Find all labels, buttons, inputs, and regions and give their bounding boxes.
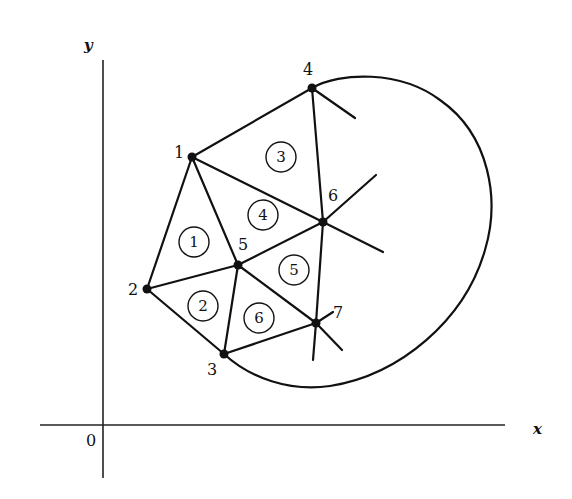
node-label-1: 1	[174, 143, 184, 162]
node-label-7: 7	[333, 303, 343, 322]
node-4	[308, 84, 317, 93]
node-6	[319, 218, 328, 227]
element-label-3: 3	[266, 142, 296, 172]
element-label-4: 4	[248, 200, 278, 230]
node-label-3: 3	[207, 360, 217, 379]
x-axis-label: x	[532, 420, 543, 438]
mesh-edges	[147, 88, 383, 360]
node-label-2: 2	[128, 280, 138, 299]
svg-text:4: 4	[258, 206, 268, 224]
node-5	[234, 261, 243, 270]
svg-text:1: 1	[189, 233, 199, 251]
element-label-1: 1	[179, 227, 209, 257]
svg-text:3: 3	[276, 148, 286, 166]
origin-label: 0	[86, 431, 96, 450]
svg-text:5: 5	[289, 261, 299, 279]
element-label-6: 6	[244, 303, 274, 333]
mesh-diagram: y x 0 1 2 3 4 5 6 7 1	[0, 0, 572, 499]
node-label-6: 6	[328, 186, 338, 205]
svg-text:6: 6	[254, 309, 264, 327]
node-3	[220, 350, 229, 359]
node-1	[188, 153, 197, 162]
element-label-2: 2	[188, 291, 218, 321]
node-7	[312, 319, 321, 328]
element-label-5: 5	[279, 255, 309, 285]
node-label-5: 5	[238, 235, 248, 254]
node-2	[143, 285, 152, 294]
node-label-4: 4	[303, 60, 313, 79]
y-axis-label: y	[83, 36, 94, 54]
svg-text:2: 2	[198, 297, 208, 315]
